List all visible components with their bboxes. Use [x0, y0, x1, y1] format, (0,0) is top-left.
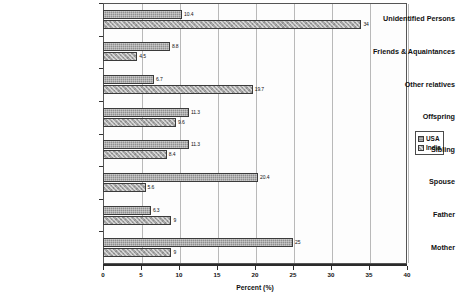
- bar-value-label: 9: [173, 216, 176, 225]
- y-axis-tick: [99, 231, 103, 232]
- x-axis-tick: [293, 266, 294, 270]
- x-axis-tick: [331, 266, 332, 270]
- bar-usa: [103, 238, 293, 247]
- x-axis-tick: [217, 266, 218, 270]
- category-label: Offspring: [355, 112, 455, 121]
- x-axis-tick: [103, 266, 104, 270]
- bar-india: [103, 150, 167, 159]
- x-axis-tick: [141, 266, 142, 270]
- x-axis-tick-label: 15: [205, 271, 229, 279]
- bar-usa: [103, 75, 154, 84]
- legend-label-usa: USA: [426, 134, 440, 143]
- bar-value-label: 4.5: [139, 52, 146, 61]
- bar-value-label: 11.3: [191, 140, 200, 149]
- bar-usa: [103, 140, 189, 149]
- category-label: Friends & Aquaintances: [355, 47, 455, 56]
- x-axis-tick-label: 35: [357, 271, 381, 279]
- bar-value-label: 8.8: [172, 42, 179, 51]
- bar-value-label: 5.6: [148, 183, 155, 192]
- bar-value-label: 19.7: [255, 85, 264, 94]
- chart-title: [60, 0, 390, 2]
- bar-india: [103, 183, 146, 192]
- bar-value-label: 25: [295, 238, 300, 247]
- bar-india: [103, 20, 361, 29]
- bar-value-label: 11.3: [191, 108, 200, 117]
- bar-usa: [103, 10, 182, 19]
- bar-value-label: 8.4: [169, 150, 176, 159]
- y-axis-tick: [99, 134, 103, 135]
- x-axis-tick-label: 30: [319, 271, 343, 279]
- x-axis-tick-label: 20: [243, 271, 267, 279]
- category-label: Unidentified Persons: [355, 14, 455, 23]
- bar-india: [103, 85, 253, 94]
- category-label: Other relatives: [355, 80, 455, 89]
- category-label: Spouse: [355, 177, 455, 186]
- x-axis-tick: [407, 266, 408, 270]
- bar-value-label: 20.4: [260, 173, 269, 182]
- category-label: Mother: [355, 243, 455, 252]
- bar-usa: [103, 108, 189, 117]
- x-axis-tick: [255, 266, 256, 270]
- bar-rows-container: 10.4348.84.56.719.711.39.611.38.420.45.6…: [103, 3, 407, 264]
- bar-india: [103, 52, 137, 61]
- x-axis-tick-label: 5: [129, 271, 153, 279]
- bar-india: [103, 216, 171, 225]
- bar-value-label: 6.3: [153, 206, 160, 215]
- x-axis-tick-label: 25: [281, 271, 305, 279]
- x-axis-tick: [369, 266, 370, 270]
- legend-item-usa: USA: [418, 134, 441, 143]
- y-axis-tick: [99, 199, 103, 200]
- bar-usa: [103, 42, 170, 51]
- bar-value-label: 6.7: [156, 75, 163, 84]
- bar-value-label: 10.4: [184, 10, 193, 19]
- bar-india: [103, 118, 176, 127]
- x-axis-tick-label: 10: [167, 271, 191, 279]
- bar-value-label: 9: [173, 248, 176, 257]
- y-axis-tick: [99, 166, 103, 167]
- bar-value-label: 9.6: [178, 118, 185, 127]
- bar-usa: [103, 173, 258, 182]
- legend-swatch-usa-icon: [418, 136, 424, 142]
- y-axis-tick: [99, 3, 103, 4]
- category-label: Sibling: [355, 145, 455, 154]
- x-axis-tick: [179, 266, 180, 270]
- y-axis-tick: [99, 36, 103, 37]
- bar-usa: [103, 206, 151, 215]
- x-axis-tick-label: 40: [395, 271, 419, 279]
- x-axis-tick-label: 0: [91, 271, 115, 279]
- gridline: [408, 4, 409, 263]
- category-label: Father: [355, 210, 455, 219]
- y-axis-tick: [99, 101, 103, 102]
- y-axis-tick: [99, 68, 103, 69]
- bar-chart: 10.4348.84.56.719.711.39.611.38.420.45.6…: [0, 0, 460, 299]
- x-axis-title: Percent (%): [103, 284, 407, 291]
- bar-india: [103, 248, 171, 257]
